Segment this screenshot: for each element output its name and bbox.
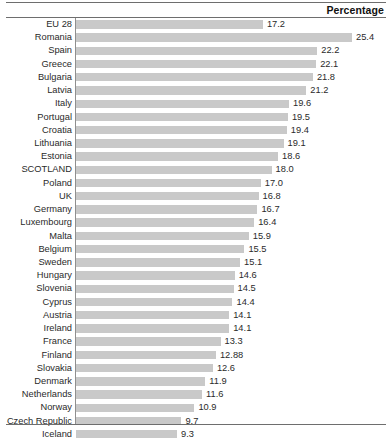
chart-row: Lithuania19.1 — [0, 137, 390, 150]
bar-value-label: 17.2 — [267, 18, 285, 31]
bar-value-label: 19.6 — [293, 97, 311, 110]
category-label: Latvia — [0, 84, 72, 97]
bar — [76, 86, 306, 94]
bar-value-label: 19.1 — [288, 137, 306, 150]
bar-value-label: 14.1 — [233, 322, 251, 335]
bar-value-label: 12.6 — [217, 362, 235, 375]
chart-row: France13.3 — [0, 335, 390, 348]
bar-value-label: 18.0 — [276, 163, 294, 176]
category-label: Spain — [0, 44, 72, 57]
bar — [76, 430, 177, 438]
bar — [76, 232, 249, 240]
bar-value-label: 14.6 — [239, 269, 257, 282]
bar-value-label: 14.4 — [236, 296, 254, 309]
category-label: Italy — [0, 97, 72, 110]
chart-row: Slovenia14.5 — [0, 282, 390, 295]
bar — [76, 113, 288, 121]
bar-value-label: 22.2 — [321, 44, 339, 57]
bar-value-label: 14.1 — [233, 309, 251, 322]
bar-value-label: 9.3 — [181, 428, 194, 441]
category-label: Finland — [0, 349, 72, 362]
bar — [76, 404, 194, 412]
bar — [76, 390, 202, 398]
category-label: Austria — [0, 309, 72, 322]
chart-row: Spain22.2 — [0, 44, 390, 57]
bar — [76, 324, 229, 332]
chart-row: Italy19.6 — [0, 97, 390, 110]
category-label: Iceland — [0, 428, 72, 441]
bar — [76, 166, 272, 174]
bar-value-label: 21.2 — [310, 84, 328, 97]
category-label: EU 28 — [0, 18, 72, 31]
chart-row: Czech Republic9.7 — [0, 415, 390, 428]
bar-value-label: 12.88 — [220, 349, 243, 362]
bar-value-label: 15.9 — [253, 230, 271, 243]
bar — [76, 218, 254, 226]
category-label: Czech Republic — [0, 415, 72, 428]
bar-value-label: 19.4 — [291, 124, 309, 137]
chart-row: Austria14.1 — [0, 309, 390, 322]
category-label: Cyprus — [0, 296, 72, 309]
bar-value-label: 16.8 — [263, 190, 281, 203]
chart-row: Norway10.9 — [0, 401, 390, 414]
bar — [76, 205, 257, 213]
bar-value-label: 22.1 — [320, 58, 338, 71]
chart-row: Denmark11.9 — [0, 375, 390, 388]
chart-header: Percentage — [6, 3, 384, 17]
chart-row: Belgium15.5 — [0, 243, 390, 256]
category-label: Slovenia — [0, 282, 72, 295]
bar-value-label: 16.4 — [258, 216, 276, 229]
category-label: Portugal — [0, 111, 72, 124]
chart-row: Malta15.9 — [0, 230, 390, 243]
chart-row: Romania25.4 — [0, 31, 390, 44]
bar — [76, 179, 261, 187]
chart-row: Netherlands11.6 — [0, 388, 390, 401]
bar — [76, 337, 221, 345]
category-label: Hungary — [0, 269, 72, 282]
chart-row: UK16.8 — [0, 190, 390, 203]
chart-row: Sweden15.1 — [0, 256, 390, 269]
category-label: Norway — [0, 401, 72, 414]
category-label: Belgium — [0, 243, 72, 256]
category-label: Bulgaria — [0, 71, 72, 84]
category-label: SCOTLAND — [0, 163, 72, 176]
chart-row: Slovakia12.6 — [0, 362, 390, 375]
chart-row: Finland12.88 — [0, 349, 390, 362]
bar-value-label: 18.6 — [282, 150, 300, 163]
chart-row: Portugal19.5 — [0, 111, 390, 124]
chart-row: EU 2817.2 — [0, 18, 390, 31]
bar — [76, 100, 289, 108]
category-label: Romania — [0, 31, 72, 44]
category-label: Greece — [0, 58, 72, 71]
bar — [76, 285, 234, 293]
bar-value-label: 15.5 — [248, 243, 266, 256]
bar — [76, 271, 235, 279]
bar — [76, 311, 229, 319]
percentage-column-header: Percentage — [326, 4, 384, 16]
category-label: Malta — [0, 230, 72, 243]
chart-bottom-rule — [6, 424, 386, 425]
category-label: Luxembourg — [0, 216, 72, 229]
bar-value-label: 16.7 — [261, 203, 279, 216]
bar — [76, 20, 263, 28]
category-label: UK — [0, 190, 72, 203]
category-label: Slovakia — [0, 362, 72, 375]
chart-row: Germany16.7 — [0, 203, 390, 216]
bar — [76, 298, 232, 306]
category-label: France — [0, 335, 72, 348]
chart-row: SCOTLAND18.0 — [0, 163, 390, 176]
bar — [76, 126, 287, 134]
chart-row: Iceland9.3 — [0, 428, 390, 441]
chart-row: Poland17.0 — [0, 177, 390, 190]
bar — [76, 47, 317, 55]
chart-row: Ireland14.1 — [0, 322, 390, 335]
bar — [76, 192, 259, 200]
chart-row: Estonia18.6 — [0, 150, 390, 163]
category-label: Sweden — [0, 256, 72, 269]
bar-value-label: 13.3 — [225, 335, 243, 348]
category-label: Lithuania — [0, 137, 72, 150]
bar — [76, 377, 205, 385]
bar — [76, 60, 316, 68]
bar — [76, 258, 240, 266]
category-label: Netherlands — [0, 388, 72, 401]
